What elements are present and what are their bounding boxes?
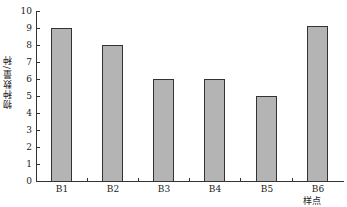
y-tick <box>36 45 40 46</box>
bar-b2 <box>102 45 123 182</box>
y-tick <box>36 113 40 114</box>
y-tick <box>36 62 40 63</box>
y-tick <box>36 147 40 148</box>
bar-b3 <box>153 79 174 182</box>
x-tick-label: B6 <box>303 184 333 194</box>
y-tick-label: 2 <box>18 142 32 152</box>
y-axis-title: 物种数量/种 <box>2 55 14 109</box>
x-axis-title: 样点 <box>303 194 321 207</box>
y-tick-label: 7 <box>18 57 32 67</box>
bar-b6 <box>307 26 328 182</box>
x-tick <box>138 178 139 181</box>
y-tick <box>36 79 40 80</box>
x-tick <box>87 178 88 181</box>
y-tick <box>36 28 40 29</box>
x-tick-label: B5 <box>252 184 282 194</box>
y-tick-label: 5 <box>18 91 32 101</box>
x-tick-label: B1 <box>47 184 77 194</box>
bar-b4 <box>204 79 225 182</box>
bar-b1 <box>51 28 72 182</box>
y-tick-label: 9 <box>18 23 32 33</box>
y-tick-label: 10 <box>18 6 32 16</box>
y-tick <box>36 130 40 131</box>
y-tick-label: 8 <box>18 40 32 50</box>
y-tick-label: 4 <box>18 108 32 118</box>
y-tick <box>36 96 40 97</box>
y-tick <box>36 164 40 165</box>
x-axis <box>36 181 344 182</box>
x-tick <box>240 178 241 181</box>
bar-b5 <box>256 96 277 182</box>
x-tick-label: B2 <box>98 184 128 194</box>
y-tick-label: 3 <box>18 125 32 135</box>
x-tick <box>292 178 293 181</box>
y-tick <box>36 11 40 12</box>
y-tick-label: 1 <box>18 159 32 169</box>
y-tick-label: 6 <box>18 74 32 84</box>
y-tick-label: 0 <box>18 176 32 186</box>
y-tick <box>36 181 40 182</box>
x-tick-label: B4 <box>200 184 230 194</box>
x-tick <box>189 178 190 181</box>
x-tick-label: B3 <box>149 184 179 194</box>
